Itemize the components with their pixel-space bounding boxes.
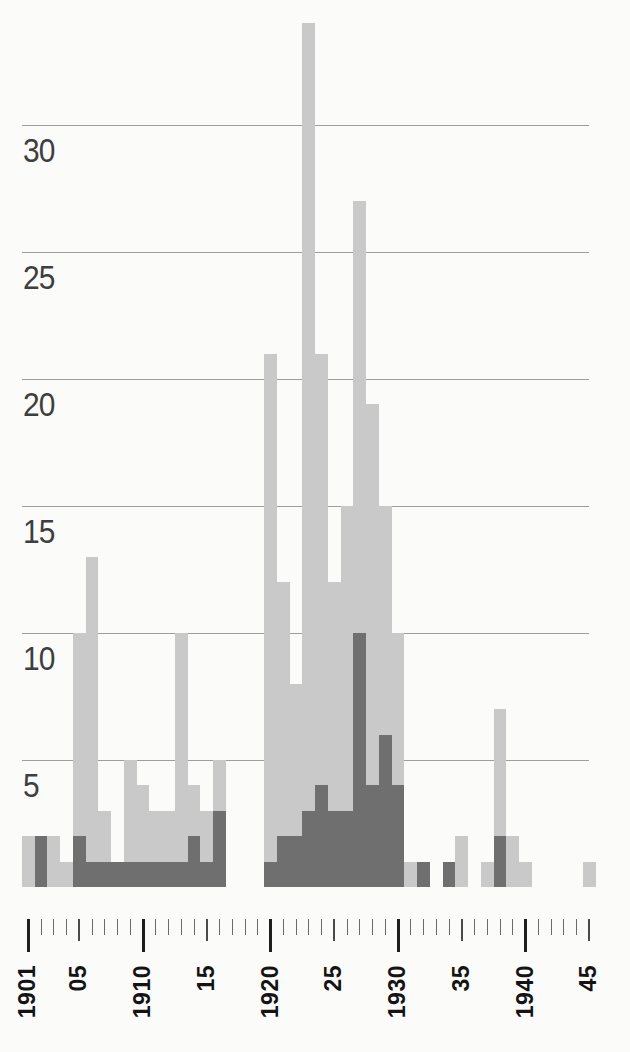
- y-axis-label-30: 30: [23, 133, 55, 167]
- bar-total-1920: [264, 354, 277, 887]
- x-tick-1928: [372, 919, 373, 935]
- x-axis-label-1940: 1940: [514, 965, 536, 1049]
- bar-subset-1922: [290, 836, 303, 887]
- x-tick-1930: [397, 919, 400, 952]
- bar-subset-1925: [328, 811, 341, 887]
- x-tick-1916: [219, 919, 220, 935]
- x-tick-1915: [206, 919, 208, 941]
- bar-subset-1926: [341, 811, 354, 887]
- x-tick-1919: [257, 919, 258, 935]
- x-tick-1920: [269, 919, 272, 952]
- x-tick-1913: [181, 919, 182, 935]
- bar-total-1940: [519, 862, 532, 887]
- x-tick-1937: [487, 919, 488, 935]
- y-axis-label-5: 5: [23, 768, 39, 802]
- x-tick-1944: [576, 919, 577, 935]
- bar-subset-1907: [98, 862, 111, 887]
- x-axis-label-1930: 1930: [386, 965, 408, 1049]
- bar-subset-1914: [188, 836, 201, 887]
- x-tick-1912: [168, 919, 169, 935]
- bar-total-1937: [481, 862, 494, 887]
- bar-total-1945: [583, 862, 596, 887]
- bar-total-1913: [175, 633, 188, 887]
- x-axis-label-1910: 1910: [131, 965, 153, 1049]
- bar-total-1939: [506, 836, 519, 887]
- y-axis-label-20: 20: [23, 387, 55, 421]
- x-tick-1907: [104, 919, 105, 935]
- x-axis-label-1925: 25: [322, 965, 344, 1049]
- x-tick-1904: [66, 919, 67, 935]
- x-tick-1908: [117, 919, 118, 935]
- histogram-chart: 5101520253019010519101519202519303519404…: [0, 0, 630, 1052]
- bar-subset-1902: [35, 836, 48, 887]
- bar-subset-1915: [200, 862, 213, 887]
- y-axis-label-25: 25: [23, 260, 55, 294]
- x-tick-1939: [512, 919, 513, 935]
- bar-subset-1908: [111, 862, 124, 887]
- bar-total-1935: [455, 836, 468, 887]
- x-tick-1922: [296, 919, 297, 935]
- bar-total-1903: [47, 836, 60, 887]
- x-tick-1935: [461, 919, 463, 941]
- bar-subset-1932: [417, 862, 430, 887]
- x-tick-1936: [474, 919, 475, 935]
- bar-subset-1923: [302, 811, 315, 887]
- bar-subset-1916: [213, 811, 226, 887]
- x-tick-1917: [232, 919, 233, 935]
- x-tick-1932: [423, 919, 424, 935]
- bar-subset-1929: [379, 735, 392, 887]
- bar-total-1923: [302, 23, 315, 887]
- x-tick-1943: [563, 919, 564, 935]
- x-tick-1940: [524, 919, 527, 952]
- x-tick-1927: [359, 919, 360, 935]
- x-tick-1938: [500, 919, 501, 935]
- x-tick-1903: [53, 919, 54, 935]
- bar-total-1904: [60, 862, 73, 887]
- bar-subset-1905: [73, 836, 86, 887]
- y-axis-label-15: 15: [23, 514, 55, 548]
- x-axis-label-1945: 45: [577, 965, 599, 1049]
- x-tick-1911: [155, 919, 156, 935]
- x-tick-1906: [92, 919, 93, 935]
- x-tick-1945: [588, 919, 590, 941]
- bar-subset-1910: [137, 862, 150, 887]
- x-tick-1901: [27, 919, 30, 952]
- bar-subset-1909: [124, 862, 137, 887]
- bar-subset-1906: [86, 862, 99, 887]
- bar-subset-1927: [353, 633, 366, 887]
- bar-subset-1934: [443, 862, 456, 887]
- x-tick-1921: [283, 919, 284, 935]
- x-tick-1902: [41, 919, 42, 935]
- x-tick-1934: [449, 919, 450, 935]
- x-axis-label-1920: 1920: [259, 965, 281, 1049]
- x-tick-1924: [321, 919, 322, 935]
- x-tick-1929: [385, 919, 386, 935]
- x-axis-label-1915: 15: [195, 965, 217, 1049]
- x-axis-label-1901: 1901: [16, 965, 38, 1049]
- x-tick-1909: [130, 919, 131, 935]
- x-tick-1926: [347, 919, 348, 935]
- x-tick-1925: [333, 919, 335, 941]
- x-tick-1942: [551, 919, 552, 935]
- bar-total-1906: [86, 557, 99, 887]
- x-tick-1933: [436, 919, 437, 935]
- bar-total-1931: [404, 862, 417, 887]
- bar-subset-1911: [149, 862, 162, 887]
- bar-subset-1913: [175, 862, 188, 887]
- x-tick-1910: [142, 919, 145, 952]
- x-tick-1923: [308, 919, 309, 935]
- bar-subset-1924: [315, 785, 328, 887]
- x-tick-1914: [194, 919, 195, 935]
- bar-subset-1920: [264, 862, 277, 887]
- x-tick-1918: [245, 919, 246, 935]
- bar-total-1901: [22, 836, 35, 887]
- bar-subset-1938: [494, 836, 507, 887]
- bar-subset-1928: [366, 785, 379, 887]
- x-tick-1941: [538, 919, 539, 935]
- bar-subset-1912: [162, 862, 175, 887]
- scanned-histogram-page: 5101520253019010519101519202519303519404…: [0, 0, 630, 1052]
- x-tick-1931: [410, 919, 411, 935]
- bar-subset-1921: [277, 836, 290, 887]
- x-axis-label-1905: 05: [67, 965, 89, 1049]
- bar-subset-1930: [392, 785, 405, 887]
